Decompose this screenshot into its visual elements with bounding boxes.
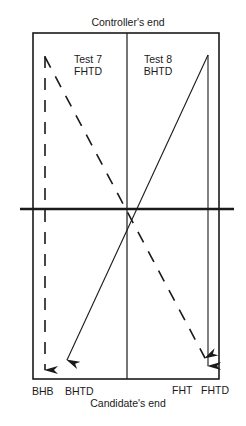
test7-label: Test 7	[68, 54, 108, 65]
endpoint-bhtd: BHTD	[65, 386, 94, 397]
solid-diagonal-arrow	[67, 55, 208, 360]
endpoint-fhtd: FHTD	[201, 385, 229, 396]
diagram-canvas	[0, 0, 246, 426]
test8-label: Test 8	[138, 54, 178, 65]
endpoint-fht: FHT	[172, 385, 192, 396]
test7-code: FHTD	[68, 66, 108, 77]
candidates-end-label: Candidate's end	[80, 398, 176, 409]
endpoint-bhb: BHB	[32, 386, 54, 397]
test8-code: BHTD	[138, 66, 178, 77]
field-box	[33, 33, 219, 379]
controllers-end-label: Controller's end	[80, 17, 176, 28]
dashed-diagonal-arrow	[45, 57, 205, 358]
